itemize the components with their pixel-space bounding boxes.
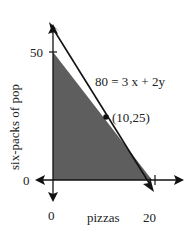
- point-marker: [103, 114, 109, 120]
- y-tick-label-50: 50: [30, 45, 43, 60]
- point-label: (10,25): [112, 110, 150, 125]
- y-tick-label-0: 0: [23, 173, 30, 188]
- x-axis-label: pizzas: [87, 210, 119, 225]
- equation-label: 80 = 3 x + 2y: [95, 74, 165, 89]
- x-tick-label-20: 20: [143, 210, 156, 225]
- y-axis-label: six-packs of pop: [7, 84, 22, 170]
- linear-programming-graph: 80 = 3 x + 2y (10,25) 50 0 0 20 pizzas s…: [0, 0, 191, 237]
- x-tick-label-0: 0: [48, 208, 55, 223]
